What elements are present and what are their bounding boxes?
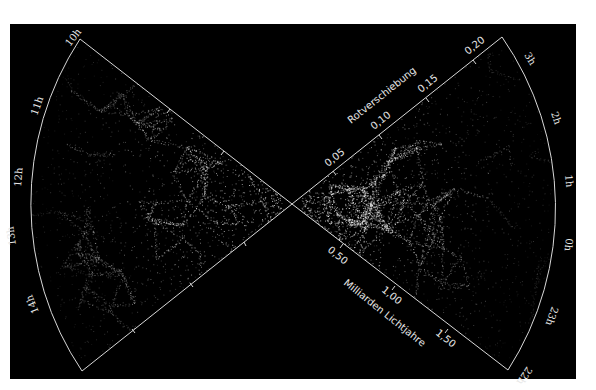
ra-label: 12h [12,167,25,188]
ra-label: 0h [563,238,575,252]
ra-label: 1h [563,174,575,188]
redshift-survey-diagram: 0,05 0,10 0,15 0,20 Rotverschiebung 0,50… [0,0,596,390]
